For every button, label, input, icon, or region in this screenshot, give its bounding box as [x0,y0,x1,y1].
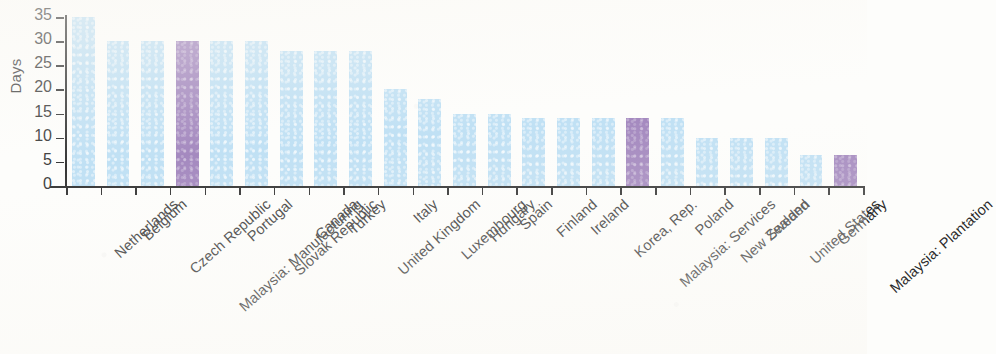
x-axis-tick-mark [759,187,761,195]
bar [280,51,303,186]
x-axis-tick-mark [447,187,449,195]
x-axis-line [50,186,865,188]
x-axis-tick-mark [239,187,241,195]
y-axis-tick-mark [56,41,64,43]
x-axis-tick-mark [309,187,311,195]
y-axis-tick-label: 5 [43,151,52,169]
x-axis-label: Czech Republic [187,196,274,277]
bar [834,155,857,186]
x-axis-label: Ireland [588,196,632,238]
x-axis-label: Portugal [244,196,295,245]
y-axis-tick-mark [56,162,64,164]
y-axis-tick-label: 10 [34,127,52,145]
x-axis-tick-mark [378,187,380,195]
x-axis-label: Luxembourg [458,196,529,262]
x-axis-tick-mark [66,187,68,195]
x-axis-label: Malaysia: Services [677,196,779,290]
bar [141,41,164,186]
x-axis-tick-mark [274,187,276,195]
x-axis-tick-mark [170,187,172,195]
y-axis-tick-mark [56,65,64,67]
bar [176,41,199,186]
bar [800,155,823,186]
x-axis-tick-mark [828,187,830,195]
x-axis-tick-mark [620,187,622,195]
x-axis-label: Slovak Republic [291,196,380,278]
y-axis-tick-label: 25 [34,54,52,72]
x-axis-label: Belgium [139,196,189,243]
x-axis-label: Poland [692,196,737,239]
x-axis-label: Turkey [345,196,389,238]
y-axis-tick-label: 20 [34,78,52,96]
x-axis-tick-mark [101,187,103,195]
x-axis-tick-mark [516,187,518,195]
y-axis-tick-label: 0 [43,175,52,193]
y-axis-tick-label: 15 [34,103,52,121]
plot-area [66,17,863,186]
x-axis-label: Sweden [763,196,813,243]
x-axis-label: Finland [554,196,601,240]
x-axis-tick-mark [586,187,588,195]
bar [626,118,649,186]
bar [72,17,95,186]
bar [592,118,615,186]
x-axis-tick-mark [655,187,657,195]
y-axis-tick-mark [56,114,64,116]
x-axis-label: Netherlands [111,196,181,261]
x-axis-tick-mark [863,187,865,195]
bar [488,114,511,186]
bar [418,99,441,186]
x-axis-label: Malaysia: Plantation [887,196,996,296]
bar [314,51,337,186]
bar [384,89,407,186]
x-axis-tick-mark [794,187,796,195]
x-axis-label: Canada [312,196,361,242]
x-axis-label: Korea, Rep. [631,196,700,260]
x-axis-tick-mark [343,187,345,195]
y-axis-title: Days [7,68,24,94]
y-axis-tick-mark [56,186,64,188]
x-axis-tick-mark [551,187,553,195]
x-axis-label: Germany [834,196,890,248]
bar [522,118,545,186]
y-axis-tick-label: 35 [34,6,52,24]
bar [107,41,130,186]
y-axis-tick-mark [56,89,64,91]
bar [696,138,719,186]
bar [349,51,372,186]
bar [245,41,268,186]
x-axis-label: Spain [516,196,555,233]
bar [210,41,233,186]
x-axis-label: Italy [410,196,441,226]
x-axis-label: United Kingdom [395,196,483,278]
x-axis-label: Malaysia: Manufacturing [236,196,365,315]
x-axis-tick-mark [724,187,726,195]
bar [453,114,476,186]
bar [557,118,580,186]
y-axis-tick-label: 30 [34,30,52,48]
y-axis-tick-mark [56,17,64,19]
x-axis-label: New Zealand [737,196,812,266]
x-axis-tick-mark [690,187,692,195]
bar [661,118,684,186]
x-axis-tick-mark [413,187,415,195]
bar [730,138,753,186]
x-axis-label: United States [807,196,883,267]
bar [765,138,788,186]
x-axis-tick-mark [205,187,207,195]
x-axis-tick-mark [135,187,137,195]
y-axis-tick-mark [56,138,64,140]
x-axis-tick-mark [482,187,484,195]
x-axis-label: Hungary [486,196,538,245]
